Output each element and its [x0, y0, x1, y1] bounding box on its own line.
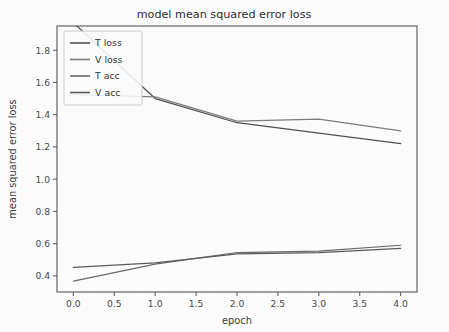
- chart-legend: T lossV lossT accV acc: [64, 31, 142, 105]
- x-tick-label: 1.5: [189, 298, 204, 309]
- x-tick-label: 1.0: [148, 298, 163, 309]
- line-chart: model mean squared error loss 0.00.51.01…: [0, 0, 449, 332]
- x-tick-label: 4.0: [393, 298, 408, 309]
- x-tick-label: 3.5: [352, 298, 367, 309]
- x-tick-label: 0.0: [66, 298, 81, 309]
- y-tick-label: 1.0: [35, 174, 50, 185]
- x-axis-title: epoch: [222, 315, 252, 326]
- y-tick-label: 0.6: [35, 238, 50, 249]
- y-axis-title: mean squared error loss: [7, 99, 18, 218]
- y-tick-label: 0.8: [35, 206, 50, 217]
- y-tick-label: 1.6: [35, 77, 50, 88]
- x-tick-label: 2.5: [271, 298, 286, 309]
- legend-label-v-acc: V acc: [95, 87, 120, 98]
- x-tick-label: 3.0: [312, 298, 327, 309]
- y-tick-label: 0.4: [35, 270, 50, 281]
- y-tick-label: 1.4: [35, 109, 50, 120]
- chart-title: model mean squared error loss: [137, 8, 312, 21]
- x-tick-label: 0.5: [107, 298, 122, 309]
- y-tick-label: 1.8: [35, 45, 50, 56]
- chart-figure: model mean squared error loss 0.00.51.01…: [0, 0, 449, 332]
- legend-label-v-loss: V loss: [95, 54, 123, 65]
- legend-label-t-acc: T acc: [94, 70, 120, 81]
- y-tick-label: 1.2: [35, 141, 50, 152]
- legend-label-t-loss: T loss: [94, 37, 122, 48]
- x-tick-label: 2.0: [230, 298, 245, 309]
